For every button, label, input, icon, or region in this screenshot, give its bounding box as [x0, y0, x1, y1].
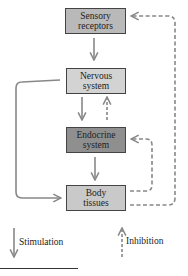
- node-label-line2: receptors: [78, 21, 113, 31]
- node-nervous-system: Nervous system: [66, 68, 126, 94]
- node-label-line2: tissues: [83, 198, 108, 208]
- divider-rule: [0, 268, 78, 269]
- legend-stimulation-label: Stimulation: [19, 237, 63, 247]
- node-label-line1: Nervous: [80, 71, 112, 81]
- edge-nervous-body: [16, 80, 61, 198]
- diagram: Sensory receptors Nervous system Endocri…: [0, 0, 188, 276]
- node-endocrine-system: Endocrine system: [66, 127, 126, 153]
- legend-inhibition-label: Inhibition: [126, 236, 163, 246]
- node-label-line1: Endocrine: [76, 130, 115, 140]
- edge-body-endocrine: [130, 139, 152, 191]
- node-label-line2: system: [83, 81, 109, 91]
- node-body-tissues: Body tissues: [66, 185, 126, 211]
- node-label-line2: system: [83, 140, 109, 150]
- node-label-line1: Sensory: [80, 11, 111, 21]
- node-sensory-receptors: Sensory receptors: [65, 8, 126, 34]
- node-label-line1: Body: [86, 188, 107, 198]
